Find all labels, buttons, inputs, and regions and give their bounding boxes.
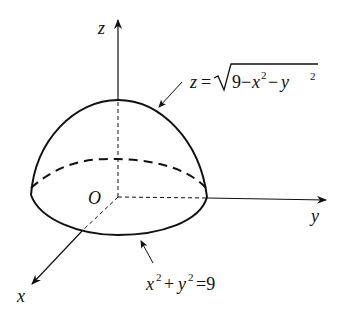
x-axis xyxy=(32,197,118,284)
boundary-equation: x 2 + y 2 =9 xyxy=(145,271,215,294)
svg-text:y: y xyxy=(176,274,186,294)
hemisphere-dome xyxy=(31,100,207,197)
surface-equation: z = 9− x 2 − y 2 xyxy=(189,64,318,92)
svg-text:=9: =9 xyxy=(196,274,215,294)
svg-text:2: 2 xyxy=(156,271,162,283)
origin-label: O xyxy=(88,188,101,208)
x-axis-label: x xyxy=(16,286,25,306)
svg-text:y: y xyxy=(279,72,289,92)
svg-text:x: x xyxy=(145,274,154,294)
svg-text:z: z xyxy=(189,72,197,92)
surface-pointer-arrow xyxy=(159,82,182,107)
z-axis-label: z xyxy=(97,18,105,38)
y-axis xyxy=(118,197,326,200)
svg-text:=: = xyxy=(201,72,211,92)
y-axis-label: y xyxy=(309,206,319,226)
svg-text:2: 2 xyxy=(261,69,267,81)
hemisphere-front-rim xyxy=(31,195,207,235)
svg-text:9−: 9− xyxy=(232,72,251,92)
svg-text:−: − xyxy=(268,72,278,92)
svg-text:2: 2 xyxy=(310,70,316,82)
svg-text:x: x xyxy=(251,72,260,92)
boundary-pointer-arrow xyxy=(141,241,153,263)
svg-text:+: + xyxy=(164,274,174,294)
hemisphere-diagram: z y x O z = 9− x 2 − y 2 x 2 + y 2 =9 xyxy=(0,0,342,331)
svg-text:2: 2 xyxy=(188,271,194,283)
